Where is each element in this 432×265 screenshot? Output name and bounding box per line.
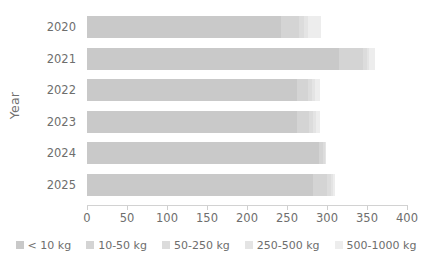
legend-swatch-icon [16,241,24,249]
x-axis-tick [127,206,128,210]
bar-segment[interactable] [87,16,281,38]
legend-item[interactable]: 500-1000 kg [335,239,417,252]
bar-segment[interactable] [325,142,326,164]
x-axis-tick [207,206,208,210]
y-axis-tick-label: 2023 [47,111,76,133]
bar-row[interactable] [87,111,320,133]
bar-row[interactable] [87,142,325,164]
legend: < 10 kg10-50 kg50-250 kg250-500 kg500-10… [0,235,432,255]
legend-label: 10-50 kg [98,239,147,252]
bar-row[interactable] [87,16,321,38]
bar-segment[interactable] [297,79,308,101]
x-axis-tick-label: 100 [156,211,178,225]
legend-swatch-icon [86,241,94,249]
legend-swatch-icon [245,241,253,249]
bar-segment[interactable] [313,174,327,196]
y-axis-title: Year [2,0,28,210]
x-axis-tick [327,206,328,210]
bar-segment[interactable] [87,48,339,70]
x-axis-tick-label: 250 [276,211,298,225]
y-axis-tick-label: 2020 [47,16,76,38]
x-axis-tick-label: 400 [396,211,418,225]
x-axis-tick-labels: 050100150200250300350400 [0,211,432,227]
bar-row[interactable] [87,79,320,101]
plot-area [87,16,407,205]
legend-label: 250-500 kg [257,239,320,252]
legend-swatch-icon [335,241,343,249]
x-axis-tick-label: 350 [356,211,378,225]
x-axis-tick-label: 150 [196,211,218,225]
stacked-bar-chart: Year 202020212022202320242025 0501001502… [0,0,432,265]
legend-item[interactable]: 50-250 kg [162,239,230,252]
bar-segment[interactable] [316,111,320,133]
x-axis-tick-label: 200 [236,211,258,225]
bar-segment[interactable] [87,142,319,164]
y-axis-tick-label: 2022 [47,79,76,101]
x-axis-tick-label: 300 [316,211,338,225]
legend-swatch-icon [162,241,170,249]
bar-segment[interactable] [87,79,297,101]
y-axis-tick-labels: 202020212022202320242025 [28,16,82,205]
x-axis-tick [167,206,168,210]
legend-item[interactable]: 250-500 kg [245,239,320,252]
legend-item[interactable]: < 10 kg [16,239,72,252]
y-axis-title-text: Year [8,91,23,118]
bar-segment[interactable] [333,174,335,196]
x-axis-tick-label: 0 [83,211,90,225]
y-axis-tick-label: 2024 [47,142,76,164]
legend-label: 50-250 kg [174,239,230,252]
x-axis-tick [87,206,88,210]
x-axis-tick [407,206,408,210]
bar-segment[interactable] [87,111,297,133]
bar-segment[interactable] [87,174,313,196]
x-axis-tick [287,206,288,210]
bar-segment[interactable] [308,16,322,38]
bar-segment[interactable] [297,111,308,133]
y-axis-tick-label: 2025 [47,174,76,196]
x-axis-tick [247,206,248,210]
bar-segment[interactable] [369,48,375,70]
bar-segment[interactable] [281,16,299,38]
bar-row[interactable] [87,174,335,196]
legend-label: 500-1000 kg [347,239,417,252]
x-axis-tick-label: 50 [120,211,135,225]
bar-segment[interactable] [315,79,320,101]
y-axis-tick-label: 2021 [47,48,76,70]
legend-item[interactable]: 10-50 kg [86,239,147,252]
x-axis-tick [367,206,368,210]
bar-segment[interactable] [339,48,363,70]
bar-row[interactable] [87,48,375,70]
legend-label: < 10 kg [28,239,72,252]
